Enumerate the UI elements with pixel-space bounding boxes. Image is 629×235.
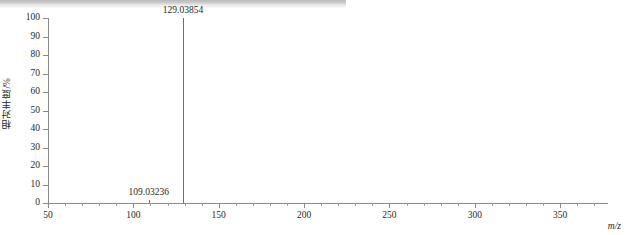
x-tick-minor: [168, 203, 169, 206]
y-tick: [43, 18, 48, 19]
spectrum-peak: [183, 18, 184, 203]
x-tick-label: 200: [279, 210, 329, 220]
x-tick-minor: [577, 203, 578, 206]
x-tick-minor: [287, 203, 288, 206]
x-tick-label: 150: [194, 210, 244, 220]
x-tick-major: [560, 203, 561, 208]
x-tick-major: [219, 203, 220, 208]
y-tick: [43, 92, 48, 93]
x-tick-major: [133, 203, 134, 208]
y-tick-label: 90: [8, 32, 40, 41]
x-tick-minor: [65, 203, 66, 206]
mass-spectrum-figure: 相对丰度/% 0102030405060708090100 5010015020…: [0, 0, 629, 235]
x-tick-minor: [372, 203, 373, 206]
spectrum-peak: [149, 200, 150, 203]
x-tick-minor: [270, 203, 271, 206]
y-axis-line: [48, 18, 49, 203]
x-tick-minor: [82, 203, 83, 206]
x-tick-minor: [116, 203, 117, 206]
x-tick-minor: [338, 203, 339, 206]
y-tick-label: 100: [8, 13, 40, 22]
x-axis-title: m/z: [608, 221, 621, 231]
x-tick-minor: [150, 203, 151, 206]
x-tick-minor: [185, 203, 186, 206]
y-tick: [43, 129, 48, 130]
x-axis-line: [48, 203, 608, 204]
y-tick-label: 80: [8, 50, 40, 59]
y-tick: [43, 55, 48, 56]
x-tick-minor: [509, 203, 510, 206]
x-tick-minor: [458, 203, 459, 206]
x-tick-label: 50: [23, 210, 73, 220]
y-tick: [43, 185, 48, 186]
x-tick-minor: [253, 203, 254, 206]
x-tick-label: 100: [108, 210, 158, 220]
peak-label: 129.03854: [163, 5, 203, 15]
x-tick-label: 300: [450, 210, 500, 220]
peak-label: 109.03236: [129, 187, 169, 197]
y-tick-label: 40: [8, 124, 40, 133]
x-tick-major: [48, 203, 49, 208]
x-tick-label: 250: [364, 210, 414, 220]
y-tick-label: 70: [8, 69, 40, 78]
y-tick: [43, 74, 48, 75]
y-tick: [43, 37, 48, 38]
x-tick-minor: [321, 203, 322, 206]
x-tick-minor: [407, 203, 408, 206]
x-tick-major: [475, 203, 476, 208]
x-tick-minor: [594, 203, 595, 206]
y-tick-label: 30: [8, 143, 40, 152]
x-tick-minor: [492, 203, 493, 206]
x-tick-major: [389, 203, 390, 208]
x-tick-minor: [441, 203, 442, 206]
x-tick-minor: [99, 203, 100, 206]
plot-area: 0102030405060708090100 50100150200250300…: [48, 18, 608, 203]
x-tick-minor: [543, 203, 544, 206]
y-tick: [43, 148, 48, 149]
x-tick-minor: [236, 203, 237, 206]
y-tick-label: 50: [8, 106, 40, 115]
y-tick-label: 20: [8, 161, 40, 170]
y-tick-label: 60: [8, 87, 40, 96]
x-tick-label: 350: [535, 210, 585, 220]
y-tick-label: 10: [8, 180, 40, 189]
y-axis-title: 相对丰度/%: [2, 78, 16, 129]
x-tick-minor: [202, 203, 203, 206]
x-tick-minor: [526, 203, 527, 206]
y-tick: [43, 111, 48, 112]
x-tick-major: [304, 203, 305, 208]
y-tick: [43, 166, 48, 167]
x-tick-minor: [424, 203, 425, 206]
y-tick-label: 0: [8, 198, 40, 207]
x-tick-minor: [355, 203, 356, 206]
